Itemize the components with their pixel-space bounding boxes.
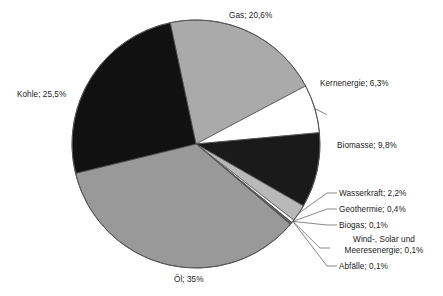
- pie-label-wind-solar-line2: Meeresenergie; 0,1%: [345, 246, 424, 255]
- leader-line-wind-solar-und-meeresenergie: [293, 221, 330, 248]
- pie-slice-group: [72, 20, 320, 268]
- pie-label-kernenergie: Kernenergie; 6,3%: [320, 79, 389, 90]
- pie-label-wind-solar-meeresenergie: Wind-, Solar undMeeresenergie; 0,1%: [332, 235, 436, 256]
- pie-label-biomasse: Biomasse; 9,8%: [337, 141, 397, 152]
- pie-label-gas: Gas; 20,6%: [229, 11, 272, 22]
- pie-label-oel: Öl; 35%: [174, 275, 203, 286]
- pie-label-geothermie: Geothermie; 0,4%: [339, 205, 406, 216]
- leader-line-biogas: [293, 221, 337, 225]
- pie-label-wind-solar-line1: Wind-, Solar und: [353, 235, 415, 244]
- pie-chart-figure: Gas; 20,6% Kernenergie; 6,3% Biomasse; 9…: [0, 0, 443, 296]
- pie-label-kohle: Kohle; 25,5%: [17, 90, 66, 101]
- pie-label-biogas: Biogas; 0,1%: [339, 221, 388, 232]
- pie-label-wasserkraft: Wasserkraft; 2,2%: [339, 189, 406, 200]
- pie-label-abfaelle: Abfälle; 0,1%: [339, 262, 388, 273]
